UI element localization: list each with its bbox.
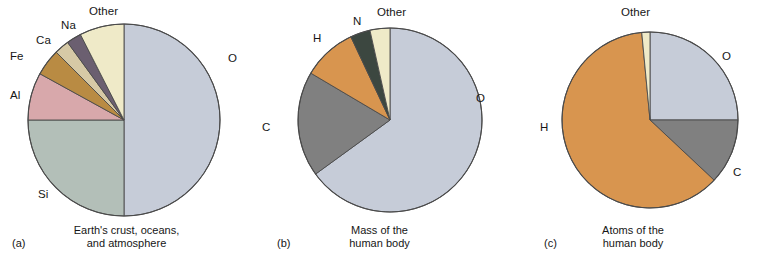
pie-chart-b bbox=[253, 0, 506, 214]
panel-b: OCHNOther (b) Mass of the human body bbox=[253, 0, 506, 266]
slice-label-c: C bbox=[262, 122, 270, 134]
pie-slice-o bbox=[650, 32, 738, 120]
pie-chart-c bbox=[506, 0, 760, 214]
caption-line-2: human body bbox=[253, 237, 506, 250]
slice-label-al: Al bbox=[10, 90, 20, 102]
slice-label-fe: Fe bbox=[10, 51, 24, 63]
caption-line-1: Mass of the bbox=[253, 224, 506, 237]
caption-line-1: Earth's crust, oceans, bbox=[0, 224, 253, 237]
slice-label-h: H bbox=[540, 122, 548, 134]
panel-a: OSiAlFeCaNaOther (a) Earth's crust, ocea… bbox=[0, 0, 253, 266]
slice-label-o: O bbox=[476, 93, 485, 105]
slice-label-other: Other bbox=[89, 6, 118, 18]
pie-slice-si bbox=[28, 120, 124, 216]
pie-stage-c bbox=[506, 0, 760, 214]
pie-stage-a bbox=[0, 0, 253, 214]
pie-slice-o bbox=[124, 24, 220, 216]
panel-c: OCHOther (c) Atoms of the human body bbox=[506, 0, 760, 266]
panel-caption-b: Mass of the human body bbox=[253, 224, 506, 250]
slice-label-o: O bbox=[228, 53, 237, 65]
panel-caption-a: Earth's crust, oceans, and atmosphere bbox=[0, 224, 253, 250]
slice-label-h: H bbox=[313, 33, 321, 45]
panel-caption-c: Atoms of the human body bbox=[506, 224, 760, 250]
caption-line-1: Atoms of the bbox=[506, 224, 760, 237]
caption-line-2: human body bbox=[506, 237, 760, 250]
slice-label-other: Other bbox=[377, 7, 406, 19]
slice-label-si: Si bbox=[38, 189, 48, 201]
pie-chart-a bbox=[0, 0, 253, 214]
slice-label-ca: Ca bbox=[36, 35, 51, 47]
pie-stage-b bbox=[253, 0, 506, 214]
slice-label-n: N bbox=[353, 16, 361, 28]
pie-chart-figure: OSiAlFeCaNaOther (a) Earth's crust, ocea… bbox=[0, 0, 760, 266]
slice-label-na: Na bbox=[61, 20, 76, 32]
slice-label-c: C bbox=[733, 167, 741, 179]
slice-label-other: Other bbox=[621, 7, 650, 19]
caption-line-2: and atmosphere bbox=[0, 237, 253, 250]
slice-label-o: O bbox=[722, 51, 731, 63]
